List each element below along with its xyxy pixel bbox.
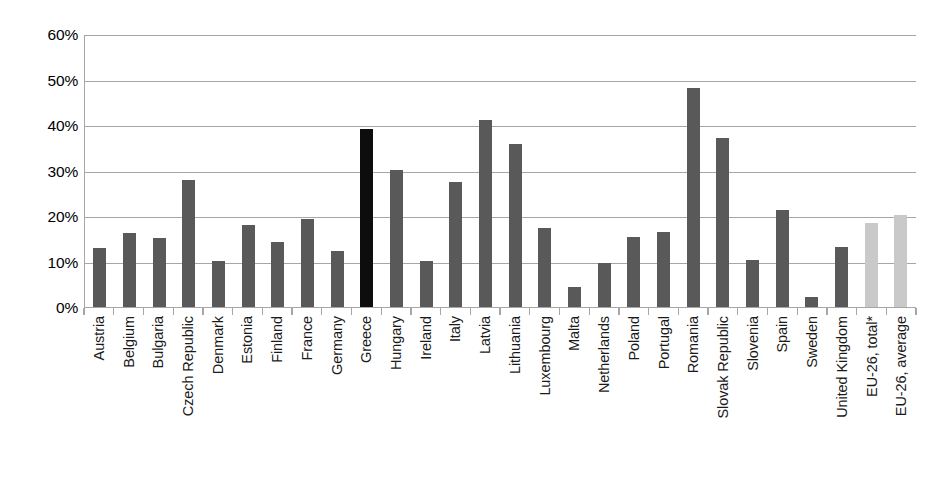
x-tick-cell: [797, 308, 827, 315]
bar[interactable]: [835, 247, 848, 307]
bar[interactable]: [776, 210, 789, 307]
x-axis-label: Austria: [92, 316, 107, 360]
x-tick-mark: [262, 308, 263, 315]
x-axis-label: Czech Republic: [181, 316, 196, 416]
x-tick-mark: [143, 308, 144, 315]
x-label-cell: Netherlands: [589, 316, 619, 478]
x-axis-tick-marks: [84, 308, 916, 315]
bar[interactable]: [657, 232, 670, 307]
bar[interactable]: [420, 261, 433, 307]
x-tick-cell: [322, 308, 352, 315]
bar[interactable]: [449, 182, 462, 307]
y-tick-label: 60%: [22, 27, 78, 43]
x-axis-label: Malta: [567, 316, 582, 351]
x-tick-cell: [143, 308, 173, 315]
x-label-cell: Slovak Republic: [708, 316, 738, 478]
bar[interactable]: [93, 248, 106, 307]
bar-slot: [827, 35, 857, 307]
x-tick-cell: [381, 308, 411, 315]
bar-slot: [708, 35, 738, 307]
x-tick-cell: [738, 308, 768, 315]
bar-slot: [471, 35, 501, 307]
x-tick-mark: [529, 308, 530, 315]
x-tick-mark: [173, 308, 174, 315]
bar[interactable]: [746, 260, 759, 307]
x-tick-cell: [351, 308, 381, 315]
x-tick-cell: [114, 308, 144, 315]
bar[interactable]: [598, 263, 611, 307]
bar[interactable]: [390, 170, 403, 307]
x-label-cell: Lithuania: [500, 316, 530, 478]
x-label-cell: Ireland: [411, 316, 441, 478]
bar[interactable]: [301, 219, 314, 307]
x-label-cell: Germany: [322, 316, 352, 478]
bar[interactable]: [212, 261, 225, 307]
x-tick-cell: [203, 308, 233, 315]
x-tick-cell: [470, 308, 500, 315]
x-label-cell: France: [292, 316, 322, 478]
x-label-cell: United Kingdom: [827, 316, 857, 478]
bar-slot: [856, 35, 886, 307]
bar-slot: [797, 35, 827, 307]
x-tick-cell: [441, 308, 471, 315]
x-axis-label: Sweden: [805, 316, 820, 368]
x-axis-label: Finland: [270, 316, 285, 363]
x-tick-mark: [648, 308, 649, 315]
x-label-cell: Romania: [678, 316, 708, 478]
x-tick-mark: [83, 308, 84, 315]
bar[interactable]: [479, 120, 492, 307]
bar[interactable]: [687, 88, 700, 307]
x-axis-label: United Kingdom: [835, 316, 850, 418]
y-tick-label: 50%: [22, 73, 78, 89]
bar[interactable]: [568, 287, 581, 307]
x-axis-label: Lithuania: [508, 316, 523, 374]
x-tick-mark: [113, 308, 114, 315]
x-label-cell: Malta: [560, 316, 590, 478]
x-tick-mark: [826, 308, 827, 315]
bar-slot: [204, 35, 234, 307]
x-tick-mark: [232, 308, 233, 315]
bar[interactable]: [360, 129, 373, 307]
bar[interactable]: [509, 144, 522, 307]
bar[interactable]: [865, 223, 878, 307]
x-axis-label: Greece: [359, 316, 374, 363]
x-axis-label: Estonia: [240, 316, 255, 364]
x-tick-cell: [768, 308, 798, 315]
y-tick-label: 20%: [22, 209, 78, 225]
x-label-cell: Austria: [84, 316, 114, 478]
bar[interactable]: [123, 233, 136, 307]
x-tick-mark: [440, 308, 441, 315]
bar[interactable]: [153, 238, 166, 307]
bar[interactable]: [538, 228, 551, 307]
bar[interactable]: [271, 242, 284, 307]
x-label-cell: Spain: [768, 316, 798, 478]
x-label-cell: EU-26, total*: [857, 316, 887, 478]
x-tick-mark: [410, 308, 411, 315]
bar-slot: [678, 35, 708, 307]
bar[interactable]: [242, 225, 255, 307]
x-tick-cell: [84, 308, 114, 315]
x-label-cell: Poland: [619, 316, 649, 478]
bar-slot: [322, 35, 352, 307]
x-label-cell: Luxembourg: [530, 316, 560, 478]
x-axis-label: EU-26, total*: [864, 316, 879, 397]
x-tick-mark: [351, 308, 352, 315]
plot-area: [84, 35, 916, 308]
bar-slot: [411, 35, 441, 307]
bar-slot: [233, 35, 263, 307]
bar-slot: [85, 35, 115, 307]
x-axis-label: Latvia: [478, 316, 493, 354]
bar[interactable]: [716, 138, 729, 307]
x-tick-mark: [589, 308, 590, 315]
bar[interactable]: [805, 297, 818, 307]
x-tick-mark: [797, 308, 798, 315]
bar[interactable]: [894, 215, 907, 307]
x-axis-label: Portugal: [656, 316, 671, 369]
x-label-cell: Latvia: [470, 316, 500, 478]
bar[interactable]: [331, 251, 344, 307]
x-tick-cell: [560, 308, 590, 315]
bar[interactable]: [627, 237, 640, 307]
x-tick-mark: [202, 308, 203, 315]
bar[interactable]: [182, 180, 195, 307]
x-tick-mark: [737, 308, 738, 315]
